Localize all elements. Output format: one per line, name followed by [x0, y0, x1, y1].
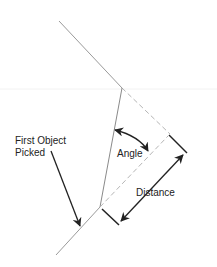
chamfer-diagram: First Object Picked Angle Distance: [0, 0, 217, 267]
first-object-top-line: [59, 21, 122, 88]
first-object-pointer-arrow: [51, 151, 80, 226]
first-object-label-line1: First Object: [15, 135, 66, 146]
first-object-label-line2: Picked: [15, 147, 45, 158]
distance-label: Distance: [136, 187, 175, 198]
angle-label: Angle: [117, 148, 143, 159]
distance-extension-tick-bottom: [102, 209, 119, 225]
top-line-extension-dashed: [122, 88, 170, 134]
distance-extension-tick-right: [169, 135, 187, 153]
first-object-bottom-line: [56, 207, 100, 255]
